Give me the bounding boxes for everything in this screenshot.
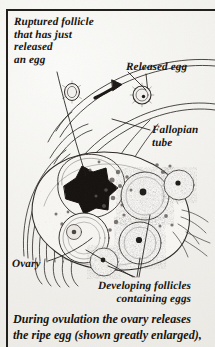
frame-top-rule (6, 9, 215, 11)
label-fallopian-tube: Fallopian tube (152, 124, 198, 149)
frame-left-rule (6, 9, 8, 347)
label-developing-follicles: Developing follicles containing eggs (98, 280, 191, 305)
label-ovary: Ovary (12, 258, 40, 271)
figure-caption: During ovulation the ovary releases the … (13, 312, 211, 343)
label-ruptured-follicle: Ruptured follicle that has just released… (14, 16, 94, 66)
figure-panel: Ruptured follicle that has just released… (0, 0, 215, 347)
label-released-egg: Released egg (126, 61, 187, 74)
